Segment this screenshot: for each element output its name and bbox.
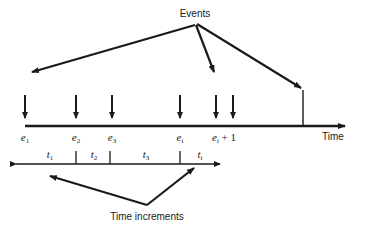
events-label: Events (180, 8, 211, 19)
event-label-e2: e2 (72, 131, 81, 145)
event-timeline-diagram: Events Time e1 e2 e3 ei ei + 1 t1 t2 t3 … (0, 0, 380, 228)
time-axis-label: Time (322, 131, 344, 142)
event-label-e3: e3 (108, 131, 117, 145)
increments-label: Time increments (110, 211, 184, 222)
events-pointer-arrows (32, 24, 301, 88)
increment-label-t1: t1 (47, 148, 54, 162)
event-label-ei: ei (177, 131, 184, 145)
increments-pointer-arrows (50, 168, 194, 205)
event-markers (25, 90, 303, 126)
event-label-ei-plus-1: ei + 1 (212, 131, 236, 145)
event-label-e1: e1 (21, 131, 30, 145)
increments-arrow-left (50, 176, 147, 205)
events-arrow-right (197, 24, 301, 88)
increment-label-t3: t3 (143, 148, 150, 162)
increment-label-ti: ti (197, 148, 202, 162)
events-arrow-left (32, 25, 195, 72)
increments-arrow-right (147, 168, 194, 205)
increment-label-t2: t2 (91, 148, 98, 162)
